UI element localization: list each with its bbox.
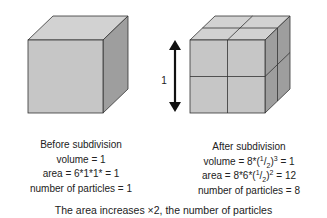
before-area: area = 6*1*1* = 1 xyxy=(6,167,156,182)
after-subdivision-block: After subdivision volume = 8*(1/2)3 = 1 … xyxy=(174,140,324,198)
before-particles: number of particles = 1 xyxy=(6,182,156,197)
double-arrow-icon xyxy=(169,40,181,112)
caption-footer: The area increases ×2, the number of par… xyxy=(0,203,327,217)
single-cube xyxy=(28,16,128,113)
subdivided-cube xyxy=(190,16,290,113)
cubes-figure xyxy=(0,0,327,140)
after-area: area = 8*6*(1/2)2 = 12 xyxy=(174,169,324,184)
before-subdivision-block: Before subdivision volume = 1 area = 6*1… xyxy=(6,138,156,196)
after-volume: volume = 8*(1/2)3 = 1 xyxy=(174,155,324,170)
after-title: After subdivision xyxy=(174,140,324,155)
before-title: Before subdivision xyxy=(6,138,156,153)
after-particles: number of particles = 8 xyxy=(174,184,324,199)
before-volume: volume = 1 xyxy=(6,153,156,168)
arrow-length-label: 1 xyxy=(159,74,169,88)
